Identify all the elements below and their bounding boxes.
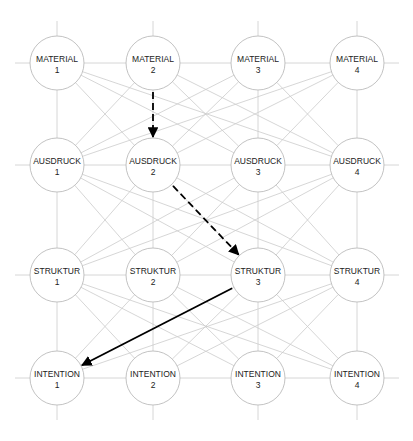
node-struktur-2: STRUKTUR2 bbox=[126, 248, 180, 302]
node-number: 4 bbox=[355, 167, 360, 177]
node-number: 4 bbox=[355, 277, 360, 287]
node-number: 1 bbox=[55, 65, 60, 75]
node-number: 2 bbox=[151, 277, 156, 287]
node-struktur-4: STRUKTUR4 bbox=[330, 248, 384, 302]
node-material-3: MATERIAL3 bbox=[231, 36, 285, 90]
node-label: AUSDRUCK bbox=[33, 156, 81, 166]
node-label: MATERIAL bbox=[336, 54, 378, 64]
node-label: STRUKTUR bbox=[235, 266, 281, 276]
node-number: 1 bbox=[55, 167, 60, 177]
node-label: AUSDRUCK bbox=[129, 156, 177, 166]
node-ausdruck-4: AUSDRUCK4 bbox=[330, 138, 384, 192]
node-label: AUSDRUCK bbox=[234, 156, 282, 166]
node-material-4: MATERIAL4 bbox=[330, 36, 384, 90]
node-label: INTENTION bbox=[235, 369, 281, 379]
path-arrow bbox=[173, 186, 239, 255]
node-label: STRUKTUR bbox=[34, 266, 80, 276]
node-label: MATERIAL bbox=[36, 54, 78, 64]
node-label: MATERIAL bbox=[237, 54, 279, 64]
node-label: INTENTION bbox=[334, 369, 380, 379]
node-ausdruck-2: AUSDRUCK2 bbox=[126, 138, 180, 192]
highlighted-path bbox=[82, 92, 239, 365]
node-number: 2 bbox=[151, 65, 156, 75]
node-number: 3 bbox=[256, 167, 261, 177]
node-intention-3: INTENTION3 bbox=[231, 351, 285, 405]
node-number: 1 bbox=[55, 277, 60, 287]
node-number: 3 bbox=[256, 277, 261, 287]
node-label: STRUKTUR bbox=[334, 266, 380, 276]
network-diagram: MATERIAL1MATERIAL2MATERIAL3MATERIAL4AUSD… bbox=[0, 0, 413, 441]
node-number: 2 bbox=[151, 167, 156, 177]
node-material-2: MATERIAL2 bbox=[126, 36, 180, 90]
node-ausdruck-3: AUSDRUCK3 bbox=[231, 138, 285, 192]
node-number: 1 bbox=[55, 380, 60, 390]
node-material-1: MATERIAL1 bbox=[30, 36, 84, 90]
node-number: 3 bbox=[256, 380, 261, 390]
node-number: 4 bbox=[355, 65, 360, 75]
node-label: INTENTION bbox=[34, 369, 80, 379]
node-intention-1: INTENTION1 bbox=[30, 351, 84, 405]
node-intention-2: INTENTION2 bbox=[126, 351, 180, 405]
node-ausdruck-1: AUSDRUCK1 bbox=[30, 138, 84, 192]
node-intention-4: INTENTION4 bbox=[330, 351, 384, 405]
node-number: 4 bbox=[355, 380, 360, 390]
node-label: MATERIAL bbox=[132, 54, 174, 64]
node-label: INTENTION bbox=[130, 369, 176, 379]
node-number: 3 bbox=[256, 65, 261, 75]
node-label: STRUKTUR bbox=[130, 266, 176, 276]
node-label: AUSDRUCK bbox=[333, 156, 381, 166]
node-struktur-1: STRUKTUR1 bbox=[30, 248, 84, 302]
node-struktur-3: STRUKTUR3 bbox=[231, 248, 285, 302]
node-number: 2 bbox=[151, 380, 156, 390]
